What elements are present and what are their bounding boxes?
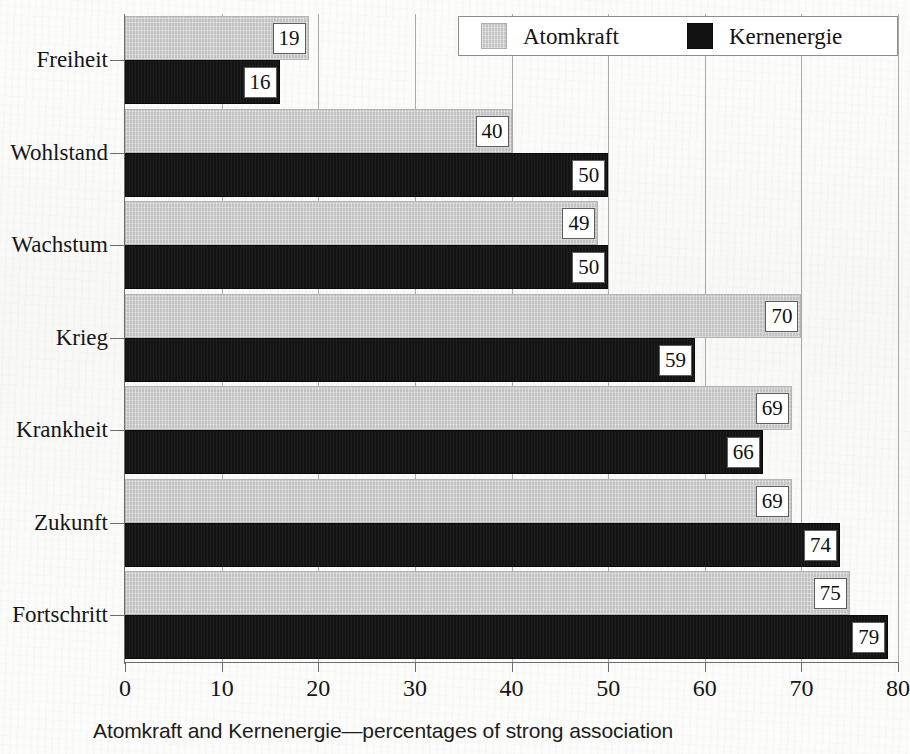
y-axis-label-krieg: Krieg xyxy=(56,326,108,349)
bar-value-label: 16 xyxy=(244,67,277,98)
y-axis-tick xyxy=(110,338,125,339)
x-axis-tick-60 xyxy=(705,663,706,672)
bar-group: 4950 xyxy=(125,199,898,292)
bar-value-label: 69 xyxy=(756,486,789,517)
bar-kernenergie xyxy=(125,430,763,474)
bar-kernenergie xyxy=(125,153,608,197)
bar-atomkraft xyxy=(125,109,512,153)
bar-atomkraft xyxy=(125,201,598,245)
x-axis-tick-label-20: 20 xyxy=(290,674,346,702)
bar-kernenergie xyxy=(125,338,695,382)
x-axis-tick-label-30: 30 xyxy=(387,674,443,702)
y-axis-tick xyxy=(110,523,125,524)
bar-kernenergie xyxy=(125,615,888,659)
bar-group: 7059 xyxy=(125,292,898,385)
bar-value-label: 50 xyxy=(572,252,605,283)
chart-caption: Atomkraft and Kernenergie—percentages of… xyxy=(93,718,673,744)
legend-entry-kernenergie: Kernenergie xyxy=(687,17,842,55)
y-axis-category-labels: FreiheitWohlstandWachstumKriegKrankheitZ… xyxy=(0,0,108,754)
bar-group: 7579 xyxy=(125,569,898,662)
x-axis-tick-0 xyxy=(125,663,126,672)
bar-value-label: 66 xyxy=(727,437,760,468)
bar-group: 4050 xyxy=(125,107,898,200)
y-axis-tick xyxy=(110,430,125,431)
bar-atomkraft xyxy=(125,479,792,523)
y-axis-label-krankheit: Krankheit xyxy=(16,418,108,441)
x-axis-tick-20 xyxy=(318,663,319,672)
bar-value-label: 59 xyxy=(659,345,692,376)
bar-atomkraft xyxy=(125,294,801,338)
gridline-80 xyxy=(898,14,899,662)
y-axis-label-fortschritt: Fortschritt xyxy=(12,603,108,626)
bar-group: 6974 xyxy=(125,477,898,570)
bar-kernenergie xyxy=(125,523,840,567)
bar-value-label: 79 xyxy=(852,622,885,653)
bar-atomkraft xyxy=(125,571,850,615)
x-axis-tick-40 xyxy=(512,663,513,672)
y-axis-tick xyxy=(110,153,125,154)
y-axis-tick xyxy=(110,60,125,61)
x-axis-tick-30 xyxy=(415,663,416,672)
bar-kernenergie xyxy=(125,245,608,289)
bar-value-label: 40 xyxy=(476,116,509,147)
bar-value-label: 70 xyxy=(765,301,798,332)
chart-legend: Atomkraft Kernenergie xyxy=(458,16,898,56)
x-axis-tick-label-0: 0 xyxy=(97,674,153,702)
bar-atomkraft xyxy=(125,386,792,430)
x-axis-tick-label-80: 80 xyxy=(870,674,910,702)
x-axis-tick-label-10: 10 xyxy=(194,674,250,702)
bar-value-label: 19 xyxy=(273,23,306,54)
legend-label-atomkraft: Atomkraft xyxy=(523,25,619,48)
bar-value-label: 75 xyxy=(814,578,847,609)
y-axis-label-wohlstand: Wohlstand xyxy=(10,141,108,164)
y-axis-tick xyxy=(110,245,125,246)
legend-swatch-atomkraft-icon xyxy=(481,23,507,49)
plot-area: 1916405049507059696669747579 xyxy=(125,14,898,662)
y-axis-label-freiheit: Freiheit xyxy=(36,48,108,71)
legend-entry-atomkraft: Atomkraft xyxy=(481,17,619,55)
legend-swatch-kernenergie-icon xyxy=(687,23,713,49)
bar-value-label: 49 xyxy=(562,208,595,239)
x-axis-tick-label-40: 40 xyxy=(484,674,540,702)
x-axis-tick-label-60: 60 xyxy=(677,674,733,702)
bar-group: 6966 xyxy=(125,384,898,477)
x-axis-tick-80 xyxy=(898,663,899,672)
y-axis-label-wachstum: Wachstum xyxy=(11,233,108,256)
x-axis-tick-10 xyxy=(222,663,223,672)
x-axis-tick-50 xyxy=(608,663,609,672)
y-axis-label-zukunft: Zukunft xyxy=(34,511,108,534)
bar-chart: 1916405049507059696669747579 FreiheitWoh… xyxy=(0,0,910,754)
bar-value-label: 50 xyxy=(572,160,605,191)
x-axis-tick-label-70: 70 xyxy=(773,674,829,702)
x-axis-tick-70 xyxy=(801,663,802,672)
bar-value-label: 69 xyxy=(756,393,789,424)
x-axis-tick-label-50: 50 xyxy=(580,674,636,702)
bar-value-label: 74 xyxy=(804,530,837,561)
legend-label-kernenergie: Kernenergie xyxy=(729,25,842,48)
y-axis-tick xyxy=(110,615,125,616)
